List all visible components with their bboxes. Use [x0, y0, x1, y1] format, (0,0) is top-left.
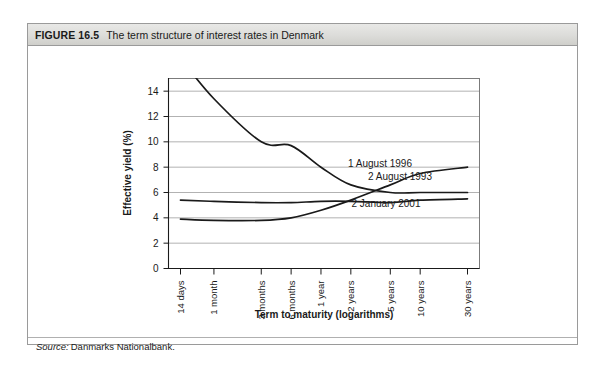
y-tick-label: 8	[153, 162, 159, 173]
source-value: Danmarks Nationalbank.	[71, 341, 175, 352]
line-chart-svg: 02468101214 14 days1 month3 months6 mont…	[28, 46, 579, 323]
series-annotation: 2 August 1993	[368, 171, 432, 182]
x-tick-label: 1 year	[315, 281, 326, 307]
x-tick-marks	[181, 269, 468, 275]
x-axis-title: Term to maturity (logarithms)	[255, 309, 394, 320]
data-curves-group	[181, 58, 468, 220]
x-tick-label: 5 years	[385, 280, 396, 311]
y-tick-label: 2	[153, 238, 159, 249]
series-annotation: 2 January 2001	[352, 198, 421, 209]
y-axis-title: Effective yield (%)	[122, 130, 133, 216]
x-tick-label: 10 years	[415, 280, 426, 317]
y-tick-label: 14	[147, 86, 159, 97]
x-tick-label: 30 years	[462, 280, 473, 317]
x-tick-label: 2 years	[345, 280, 356, 311]
source-label: Source:	[36, 341, 69, 352]
series-annotation: 1 August 1996	[348, 158, 412, 169]
series-curve	[181, 199, 468, 203]
figure-title: The term structure of interest rates in …	[106, 29, 324, 41]
source-divider	[28, 337, 577, 338]
series-annotations-group: 1 August 19962 August 19932 January 2001	[348, 158, 432, 210]
y-tick-marks	[164, 91, 169, 268]
x-tick-label: 14 days	[175, 280, 186, 314]
y-tick-label: 0	[153, 263, 159, 274]
x-tick-label: 1 month	[208, 281, 219, 315]
figure-header: FIGURE 16.5 The term structure of intere…	[28, 24, 577, 46]
y-tick-label: 6	[153, 187, 159, 198]
y-tick-label: 4	[153, 212, 159, 223]
figure-number: FIGURE 16.5	[35, 29, 99, 41]
y-tick-label: 10	[147, 136, 159, 147]
source-line: Source:Danmarks Nationalbank.	[36, 341, 175, 352]
figure-container: FIGURE 16.5 The term structure of intere…	[27, 23, 578, 345]
y-tick-labels: 02468101214	[147, 86, 159, 274]
plot-frame	[169, 79, 480, 269]
chart-plot-area: 02468101214 14 days1 month3 months6 mont…	[28, 46, 577, 323]
y-tick-label: 12	[147, 111, 159, 122]
